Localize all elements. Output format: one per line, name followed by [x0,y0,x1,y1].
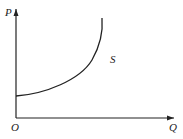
x-axis-label: Q [169,121,177,133]
supply-diagram: P O Q S [0,0,183,139]
y-axis-label: P [4,6,12,18]
origin-label: O [11,121,19,133]
supply-curve [16,18,102,96]
curve-label: S [110,53,116,65]
